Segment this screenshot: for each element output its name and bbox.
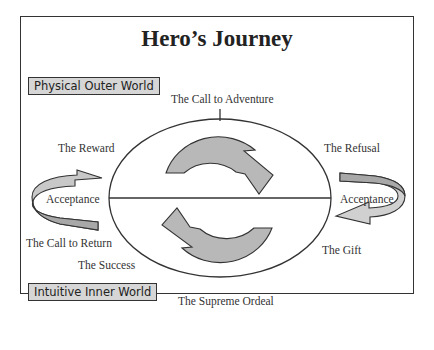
bottom-cycle-arrow-icon [162, 208, 272, 263]
stage-call-to-return: The Call to Return [26, 237, 112, 249]
stage-gift: The Gift [322, 244, 361, 256]
left-acceptance-arrow-shadow-icon [32, 201, 98, 230]
top-cycle-arrow-icon [166, 137, 273, 194]
stage-reward: The Reward [58, 142, 115, 154]
stage-refusal: The Refusal [324, 142, 380, 154]
stage-call-to-adventure: The Call to Adventure [171, 93, 274, 105]
stage-supreme-ordeal: The Supreme Ordeal [178, 295, 274, 307]
stage-success: The Success [78, 259, 135, 271]
stage-acceptance-left: Acceptance [46, 193, 100, 205]
stage-acceptance-right: Acceptance [340, 193, 394, 205]
inner-world-box: Intuitive Inner World [28, 283, 157, 301]
outer-world-box: Physical Outer World [28, 77, 160, 95]
